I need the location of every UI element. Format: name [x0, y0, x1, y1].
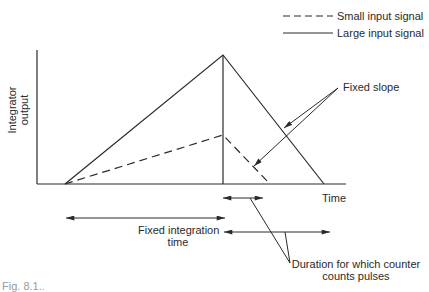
- fixed-slope-arrows: [254, 88, 338, 166]
- x-axis-label: Time: [322, 192, 346, 204]
- fixed-slope-label: Fixed slope: [343, 81, 399, 93]
- fixed-integration-label: Fixed integration time: [138, 224, 218, 248]
- legend-label-small: Small input signal: [337, 10, 423, 22]
- duration-pointers: [250, 198, 290, 263]
- duration-label: Duration for which counter counts pulses: [290, 258, 422, 282]
- large-signal-trace: [65, 55, 324, 184]
- figure-caption: Fig. 8.1..: [2, 280, 45, 292]
- y-axis-label: Integrator output: [6, 80, 30, 140]
- legend-label-large: Large input signal: [337, 27, 424, 39]
- legend: [283, 16, 333, 33]
